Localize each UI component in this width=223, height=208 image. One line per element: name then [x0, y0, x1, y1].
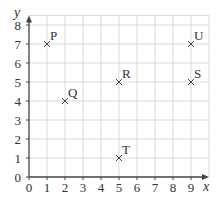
x-axis-label: x: [202, 179, 210, 194]
data-points: PQRSTU: [44, 28, 204, 161]
x-axis-ticks: 0123456789: [26, 177, 195, 195]
x-tick-label: 6: [134, 180, 141, 195]
point-label: R: [122, 66, 131, 81]
x-tick-label: 7: [152, 180, 159, 195]
x-tick-label: 4: [98, 180, 105, 195]
x-tick-label: 3: [80, 180, 87, 195]
coordinate-grid-chart: 0123456789 012345678 PQRSTU x y: [0, 0, 223, 208]
x-tick-label: 2: [62, 180, 69, 195]
point-label: P: [50, 28, 57, 43]
x-tick-label: 1: [44, 180, 51, 195]
y-tick-label: 0: [15, 170, 22, 185]
y-axis-label: y: [12, 5, 21, 20]
x-tick-label: 5: [116, 180, 123, 195]
point-label: T: [122, 142, 130, 157]
y-tick-label: 4: [15, 94, 22, 109]
y-axis-arrow-icon: [26, 16, 32, 23]
x-tick-label: 9: [188, 180, 195, 195]
y-tick-label: 2: [15, 132, 22, 147]
y-tick-label: 8: [15, 18, 22, 33]
y-tick-label: 5: [15, 75, 22, 90]
x-tick-label: 0: [26, 180, 33, 195]
y-axis-ticks: 012345678: [15, 18, 30, 185]
point-label: U: [194, 28, 204, 43]
y-tick-label: 1: [15, 151, 22, 166]
point-label: S: [194, 66, 201, 81]
y-tick-label: 7: [15, 37, 22, 52]
y-tick-label: 3: [15, 113, 22, 128]
point-label: Q: [68, 85, 78, 100]
y-tick-label: 6: [15, 56, 22, 71]
x-tick-label: 8: [170, 180, 177, 195]
